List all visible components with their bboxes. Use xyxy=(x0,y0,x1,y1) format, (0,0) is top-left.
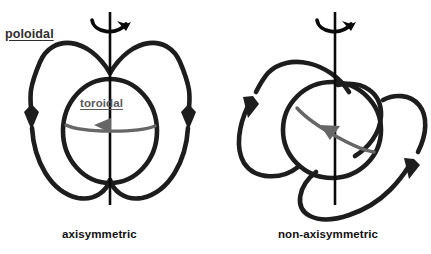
rotation-arrow-right xyxy=(317,20,356,32)
right-panel xyxy=(239,12,425,219)
poloidal-loop-left xyxy=(30,43,110,199)
poloidal-loop-right xyxy=(110,43,190,199)
poloidal-loop-tilted-upper-right xyxy=(338,84,381,156)
diagram-root: poloidal toroidal axisymmetric non-axisy… xyxy=(0,0,431,254)
poloidal-loops-right xyxy=(239,62,425,219)
poloidal-loop-tilted-lower-right xyxy=(300,96,425,219)
toroidal-arrow-left xyxy=(66,118,155,133)
poloidal-arrow-left xyxy=(24,104,39,130)
rotation-arrow-left xyxy=(92,20,131,32)
poloidal-arrow-right xyxy=(181,104,196,130)
diagram-canvas xyxy=(0,0,431,254)
left-panel xyxy=(24,12,196,205)
